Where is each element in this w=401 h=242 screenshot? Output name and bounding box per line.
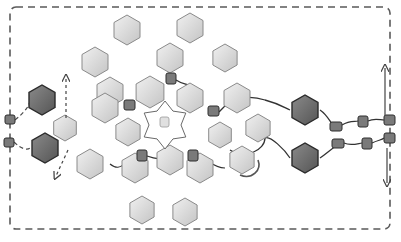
light-hexagon	[230, 146, 254, 174]
linker-block	[332, 139, 344, 148]
light-hexagon	[213, 44, 237, 72]
light-hexagon	[130, 196, 154, 224]
light-hexagon	[136, 76, 164, 108]
dark-hexagon	[292, 143, 318, 173]
dark-hexagon	[29, 85, 55, 115]
linker-block	[362, 138, 372, 149]
light-hexagon	[177, 13, 203, 43]
light-hexagon	[177, 83, 203, 113]
light-hexagon	[54, 115, 77, 141]
linker-block	[358, 116, 368, 127]
light-hexagon	[173, 198, 197, 226]
ring-core-block	[160, 117, 169, 127]
linker-block	[384, 115, 395, 125]
light-hexagon	[114, 15, 140, 45]
linker-block	[5, 115, 15, 124]
light-hexagon	[77, 149, 103, 179]
light-hexagon	[157, 43, 183, 73]
dark-hexagon	[32, 133, 58, 163]
light-hexagon	[209, 122, 232, 148]
linker-block	[188, 150, 198, 161]
linker-block	[4, 138, 14, 147]
linker-block	[330, 122, 342, 131]
molecular-network-diagram	[0, 0, 401, 242]
light-hexagon	[157, 145, 183, 175]
light-hexagon	[224, 83, 250, 113]
light-hexagon	[116, 118, 140, 146]
linker-block	[384, 133, 395, 143]
linker-block	[137, 150, 147, 161]
light-hexagon	[82, 47, 108, 77]
linker-block	[208, 106, 219, 116]
dark-hexagon	[292, 95, 318, 125]
linker-block	[166, 73, 176, 84]
linker-block	[124, 100, 135, 110]
